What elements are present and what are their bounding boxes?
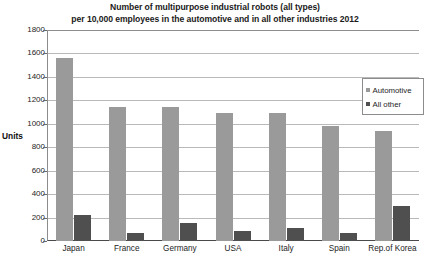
legend-item-automotive: Automotive bbox=[366, 83, 423, 97]
y-tick-label: 800 bbox=[0, 143, 45, 151]
legend: Automotive All other bbox=[362, 78, 424, 115]
y-tick-label: 600 bbox=[0, 167, 45, 175]
legend-swatch-icon-all-other bbox=[366, 102, 370, 106]
bar-all-other bbox=[74, 215, 91, 241]
bar-all-other bbox=[393, 206, 410, 241]
legend-item-all-other: All other bbox=[366, 97, 423, 111]
bars-layer bbox=[47, 30, 419, 241]
y-tick-label: 1400 bbox=[0, 73, 45, 81]
y-tick-mark bbox=[43, 241, 47, 242]
y-tick-label: 0 bbox=[0, 237, 45, 245]
bar-group bbox=[56, 30, 91, 241]
bar-all-other bbox=[234, 231, 251, 241]
bar-all-other bbox=[180, 223, 197, 241]
y-tick-label: 1000 bbox=[0, 120, 45, 128]
legend-label-automotive: Automotive bbox=[373, 86, 412, 95]
bar-all-other bbox=[340, 233, 357, 241]
y-tick-label: 1600 bbox=[0, 49, 45, 57]
legend-swatch-icon-automotive bbox=[366, 88, 370, 92]
bar-automotive bbox=[109, 107, 126, 241]
x-tick-label: Rep.of Korea bbox=[366, 244, 419, 253]
bar-automotive bbox=[216, 113, 233, 241]
bar-automotive bbox=[56, 58, 73, 241]
chart-title-line-2: per 10,000 employees in the automotive a… bbox=[0, 14, 430, 26]
bar-group bbox=[375, 30, 410, 241]
x-tick-label: France bbox=[100, 244, 153, 253]
bar-chart: Number of multipurpose industrial robots… bbox=[0, 0, 430, 269]
y-axis-title: Units bbox=[2, 131, 23, 141]
bar-automotive bbox=[322, 126, 339, 241]
bar-automotive bbox=[269, 113, 286, 241]
x-tick-label: Italy bbox=[260, 244, 313, 253]
y-tick-label: 1800 bbox=[0, 26, 45, 34]
legend-label-all-other: All other bbox=[373, 100, 402, 109]
chart-title: Number of multipurpose industrial robots… bbox=[0, 2, 430, 25]
bar-automotive bbox=[162, 107, 179, 241]
bar-group bbox=[322, 30, 357, 241]
bar-group bbox=[269, 30, 304, 241]
y-tick-label: 400 bbox=[0, 190, 45, 198]
bar-automotive bbox=[375, 131, 392, 241]
bar-all-other bbox=[127, 233, 144, 241]
chart-title-line-1: Number of multipurpose industrial robots… bbox=[0, 2, 430, 14]
x-tick-label: Japan bbox=[47, 244, 100, 253]
x-tick-label: USA bbox=[206, 244, 259, 253]
bar-group bbox=[109, 30, 144, 241]
x-tick-label: Germany bbox=[153, 244, 206, 253]
y-tick-label: 200 bbox=[0, 214, 45, 222]
bar-group bbox=[216, 30, 251, 241]
bar-all-other bbox=[287, 228, 304, 241]
bar-group bbox=[162, 30, 197, 241]
x-tick-label: Spain bbox=[313, 244, 366, 253]
y-tick-label: 1200 bbox=[0, 96, 45, 104]
